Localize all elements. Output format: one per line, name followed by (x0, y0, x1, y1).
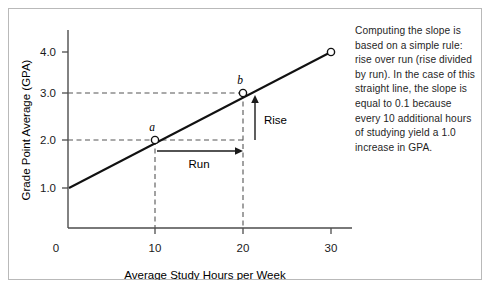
chart-svg: 4.0 3.0 2.0 1.0 0 10 20 30 (8, 8, 368, 280)
run-label: Run (188, 158, 209, 170)
annotation-run: Run (157, 147, 243, 170)
run-arrow-head (235, 147, 243, 155)
y-tick-label-1: 1.0 (40, 182, 56, 194)
rise-label: Rise (264, 114, 287, 126)
y-tick-label-2: 2.0 (40, 134, 56, 146)
chart-panel: 4.0 3.0 2.0 1.0 0 10 20 30 (8, 8, 368, 280)
figure-root: 4.0 3.0 2.0 1.0 0 10 20 30 (0, 0, 495, 295)
marker-point-end (327, 48, 334, 55)
guide-lines-group (68, 93, 243, 228)
y-tick-label-3: 3.0 (40, 87, 56, 99)
x-ticks-group: 0 10 20 30 (53, 228, 338, 254)
marker-label-b: b (237, 74, 243, 86)
x-axis-title: Average Study Hours per Week (124, 269, 286, 280)
data-markers-group: a b (149, 48, 334, 143)
x-tick-label-10: 10 (149, 242, 162, 254)
x-tick-label-0: 0 (53, 242, 59, 254)
axes-group (68, 30, 352, 228)
caption-text: Computing the slope is based on a simple… (355, 24, 477, 155)
marker-label-a: a (149, 121, 155, 133)
rise-arrow-head (251, 95, 259, 103)
y-ticks-group: 4.0 3.0 2.0 1.0 (40, 46, 68, 194)
x-tick-label-30: 30 (325, 242, 338, 254)
x-tick-label-20: 20 (237, 242, 250, 254)
annotation-rise: Rise (251, 95, 287, 140)
y-tick-label-4: 4.0 (40, 46, 56, 58)
marker-point-a (151, 136, 158, 143)
marker-point-b (239, 89, 246, 96)
y-axis-title: Grade Point Average (GPA) (20, 59, 32, 200)
